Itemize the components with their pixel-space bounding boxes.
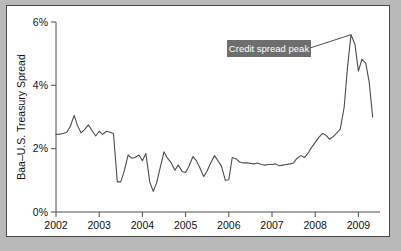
chart-panel: [6, 5, 390, 237]
figure-root: 0% 2% 4% 6% 2002 2003 2004 2005 2006 200…: [0, 0, 401, 251]
